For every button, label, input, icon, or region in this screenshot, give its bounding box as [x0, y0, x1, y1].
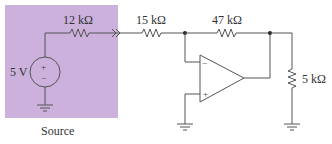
opamp-inverting-sign: −: [202, 58, 207, 68]
resistor-15k-label: 15 kΩ: [136, 13, 166, 27]
resistor-47k-label: 47 kΩ: [212, 13, 242, 27]
source-box: [5, 5, 118, 118]
opamp-icon: − +: [200, 55, 244, 102]
resistor-5k-label: 5 kΩ: [302, 72, 326, 86]
resistor-12k-label: 12 kΩ: [63, 13, 93, 27]
ground-icon: [284, 124, 300, 130]
ground-icon: [177, 124, 193, 130]
opamp-noninverting-sign: +: [203, 89, 208, 99]
plus-sign: +: [41, 62, 46, 72]
minus-sign: −: [41, 73, 46, 83]
resistor-5k: [288, 69, 296, 88]
source-label: Source: [41, 124, 74, 138]
resistor-47k: [217, 29, 270, 37]
resistor-15k: [142, 29, 185, 37]
circuit-diagram: + − 5 V 12 kΩ 15 kΩ 47 kΩ − +: [0, 0, 332, 144]
voltage-label: 5 V: [10, 65, 28, 79]
